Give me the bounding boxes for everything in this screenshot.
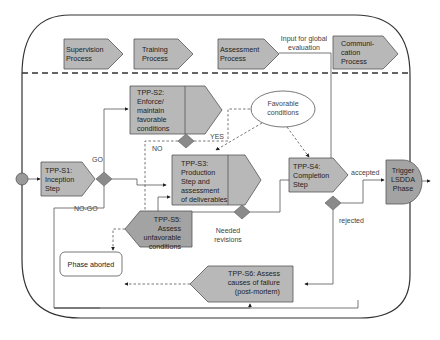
step-s2-enforce[interactable]: TPP-S2: Enforce/ maintain favorable cond… — [130, 86, 222, 134]
label-input-global-evaluation: Input for global evaluation — [281, 35, 328, 51]
assessment-process[interactable]: Assessment Process — [218, 39, 279, 69]
svg-text:Completion: Completion — [293, 171, 329, 180]
svg-text:LSDDA: LSDDA — [391, 175, 415, 184]
decision-s3 — [234, 205, 250, 219]
step-s6-post-mortem[interactable]: TPP-S6: Assess causes of failure (post-m… — [190, 266, 293, 302]
svg-text:Process: Process — [66, 54, 92, 63]
svg-text:TPP-S4:: TPP-S4: — [293, 162, 320, 171]
edge-no-go-to-s6 — [54, 304, 250, 308]
decision-s1 — [96, 172, 112, 186]
step-s3-production[interactable]: TPP-S3: Production Step and assessment o… — [172, 155, 261, 205]
decision-s4 — [325, 196, 341, 210]
svg-text:cation: cation — [341, 48, 360, 57]
edge-go-to-s3 — [112, 179, 166, 185]
step-s5-unfavorable[interactable]: TPP-S5: Assess unfavorable conditions — [125, 211, 192, 251]
step-s4-completion[interactable]: TPP-S4: Completion Step — [289, 158, 348, 192]
label-go: GO — [92, 156, 103, 163]
start-node — [16, 173, 28, 185]
svg-text:Training: Training — [142, 45, 168, 54]
svg-text:conditions: conditions — [267, 109, 299, 116]
svg-text:TPP-S3:: TPP-S3: — [181, 159, 208, 168]
svg-text:Needed: Needed — [216, 227, 241, 234]
svg-text:Communi-: Communi- — [341, 39, 375, 48]
edge-favorable-to-s4 — [287, 127, 309, 157]
edge-s5-to-aborted — [113, 229, 125, 250]
svg-text:TPP-S1:: TPP-S1: — [45, 166, 72, 175]
trigger-lsdda-phase[interactable]: Trigger LSDDA Phase — [386, 160, 422, 204]
svg-text:conditions: conditions — [149, 242, 182, 251]
svg-text:Phase: Phase — [393, 184, 413, 193]
svg-text:Process: Process — [341, 57, 367, 66]
svg-text:of deliverables: of deliverables — [181, 195, 228, 204]
favorable-conditions-node[interactable]: Favorable conditions — [251, 91, 315, 127]
label-yes: YES — [210, 133, 224, 140]
svg-text:Inception: Inception — [45, 175, 74, 184]
svg-text:Step and: Step and — [181, 177, 210, 186]
svg-text:conditions: conditions — [137, 124, 170, 133]
svg-text:Production: Production — [181, 168, 215, 177]
svg-text:causes of failure: causes of failure — [228, 278, 280, 287]
svg-text:Favorable: Favorable — [267, 100, 298, 107]
svg-text:maintain: maintain — [137, 106, 164, 115]
svg-text:revisions: revisions — [214, 236, 242, 243]
label-accepted: accepted — [351, 169, 380, 177]
svg-text:Input for global: Input for global — [281, 35, 328, 43]
svg-text:Supervision: Supervision — [66, 45, 104, 54]
label-no: NO — [152, 145, 163, 152]
decision-s2 — [178, 134, 194, 148]
svg-text:Assessment: Assessment — [220, 45, 259, 54]
svg-text:TPP-S2:: TPP-S2: — [137, 88, 164, 97]
svg-text:favorable: favorable — [137, 115, 167, 124]
communication-process[interactable]: Communi- cation Process — [333, 36, 398, 69]
label-rejected: rejected — [339, 217, 364, 225]
svg-text:TPP-S6: Assess: TPP-S6: Assess — [228, 269, 280, 278]
label-no-go: NO-GO — [74, 205, 98, 212]
svg-text:TPP-S5:: TPP-S5: — [154, 215, 181, 224]
svg-text:Step: Step — [293, 180, 308, 189]
supervision-process[interactable]: Supervision Process — [64, 39, 123, 69]
edge-go-to-s2 — [104, 109, 128, 172]
svg-text:unfavorable: unfavorable — [143, 233, 181, 242]
svg-text:Step: Step — [45, 184, 60, 193]
svg-text:Assess: Assess — [158, 224, 182, 233]
svg-text:Phase aborted: Phase aborted — [68, 260, 115, 269]
edge-accepted-to-trigger — [341, 180, 384, 203]
svg-text:Trigger: Trigger — [392, 166, 415, 175]
training-process[interactable]: Training Process — [134, 39, 193, 69]
svg-text:(post-mortem): (post-mortem) — [235, 287, 280, 296]
svg-text:Process: Process — [142, 54, 168, 63]
phase-aborted-node[interactable]: Phase aborted — [60, 252, 122, 276]
process-diagram: Supervision Process Training Process Ass… — [0, 0, 440, 340]
edge-rejected-to-s6 — [305, 210, 333, 284]
label-needed-revisions: Needed revisions — [214, 227, 242, 243]
svg-text:Process: Process — [220, 54, 246, 63]
step-s1-inception[interactable]: TPP-S1: Inception Step — [41, 162, 95, 196]
svg-text:evaluation: evaluation — [288, 44, 320, 51]
svg-text:Enforce/: Enforce/ — [137, 97, 164, 106]
svg-text:assessment: assessment — [181, 186, 219, 195]
